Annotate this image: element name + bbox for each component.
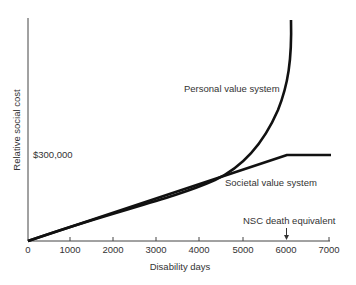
down-arrow-icon	[284, 228, 289, 240]
x-tick-labels: 0 1000 2000 3000 4000 5000 6000 7000	[25, 244, 339, 255]
y-reference-label: $300,000	[33, 149, 73, 160]
x-axis-label: Disability days	[150, 261, 211, 272]
tick-label-3000: 3000	[145, 244, 166, 255]
tick-label-2000: 2000	[102, 244, 123, 255]
tick-label-4000: 4000	[188, 244, 209, 255]
tick-label-7000: 7000	[318, 244, 339, 255]
personal-value-curve	[28, 20, 291, 241]
tick-label-0: 0	[25, 244, 30, 255]
societal-value-line	[28, 155, 331, 241]
chart: 0 1000 2000 3000 4000 5000 6000 7000 Dis…	[0, 0, 356, 285]
societal-series-label: Societal value system	[225, 177, 317, 188]
tick-label-1000: 1000	[59, 244, 80, 255]
personal-series-label: Personal value system	[184, 83, 280, 94]
x-ticks	[70, 237, 329, 241]
tick-label-5000: 5000	[232, 244, 253, 255]
nsc-annotation-label: NSC death equivalent	[243, 215, 336, 226]
y-axis-label: Relative social cost	[11, 89, 22, 171]
tick-label-6000: 6000	[275, 244, 296, 255]
